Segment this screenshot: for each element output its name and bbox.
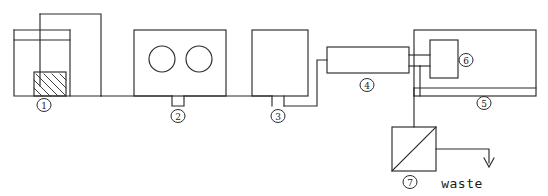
peristaltic-pump	[134, 30, 226, 96]
callout-1-label: 1	[41, 101, 47, 111]
callout-5: 5	[477, 97, 491, 110]
flow-diagram-canvas: 1 2 3 4 5 6	[0, 0, 548, 196]
pump-notch	[172, 96, 184, 106]
callout-4: 4	[360, 79, 374, 92]
callout-6: 6	[459, 54, 473, 67]
separator-diagonal	[392, 127, 436, 171]
pump-roller-left	[149, 46, 175, 72]
cell-body	[430, 40, 458, 78]
flow-cell	[430, 40, 458, 78]
callout-6-label: 6	[463, 56, 469, 66]
callout-2-label: 2	[175, 112, 181, 122]
waste-label: waste	[441, 176, 483, 191]
flow-diagram-svg: 1 2 3 4 5 6	[0, 0, 548, 196]
pump-roller-right	[186, 46, 212, 72]
injection-valve	[252, 30, 308, 106]
waste-separator	[392, 127, 436, 171]
callout-5-label: 5	[481, 99, 487, 109]
callout-4-label: 4	[364, 81, 370, 91]
callout-7-label: 7	[407, 178, 413, 188]
callout-2: 2	[171, 110, 185, 123]
tube-valve-to-coil	[284, 60, 327, 106]
tube-separator-to-waste	[436, 149, 489, 163]
callout-7: 7	[403, 176, 417, 189]
vessel-hatch-lines	[34, 74, 66, 96]
coil-body	[327, 47, 409, 73]
callout-1: 1	[37, 99, 51, 112]
sample-vessel	[14, 14, 70, 96]
callout-3: 3	[271, 110, 285, 123]
valve-body	[252, 30, 308, 96]
callout-3-label: 3	[275, 112, 281, 122]
pump-body	[134, 30, 226, 96]
callout-group: 1 2 3 4 5 6	[37, 54, 491, 189]
reaction-coil	[327, 47, 409, 73]
